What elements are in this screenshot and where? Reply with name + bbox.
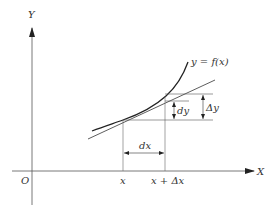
derivative-diagram: Y X O y = f(x) x x + Δx dx dy Δy [0,0,277,205]
delta-y-label: Δy [205,102,219,113]
origin-label: O [21,175,29,186]
x-tick-label: x [120,175,126,186]
tangent-line [88,80,215,139]
y-axis-label: Y [28,9,36,20]
curve [92,62,188,131]
dx-label: dx [139,140,151,151]
x-plus-dx-tick-label: x + Δx [151,175,185,186]
curve-label: y = f(x) [190,56,229,67]
dy-label: dy [177,105,189,116]
x-axis-label: X [256,166,265,177]
